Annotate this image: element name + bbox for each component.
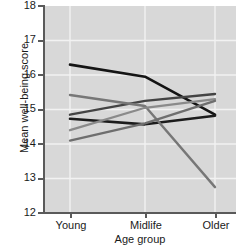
chart-figure: Mean well-being score 18 17 16 15 14 13 … <box>0 0 242 249</box>
x-tick-mark-midlife <box>145 213 147 218</box>
x-tick-label-young: Young <box>41 219 101 231</box>
x-tick-label-older: Older <box>186 219 242 231</box>
y-axis-line <box>43 5 45 214</box>
plot-area <box>44 6 236 213</box>
y-tick-label-14: 14 <box>14 138 36 149</box>
y-tick-label-16: 16 <box>14 69 36 80</box>
x-tick-mark-older <box>215 213 217 218</box>
y-tick-label-13: 13 <box>14 172 36 183</box>
y-tick-label-17: 17 <box>14 34 36 45</box>
y-tick-label-12: 12 <box>14 207 36 218</box>
y-tick-label-18: 18 <box>14 0 36 11</box>
x-tick-mark-young <box>70 213 72 218</box>
y-tick-label-15: 15 <box>14 103 36 114</box>
plot-svg <box>44 6 236 213</box>
x-axis-title: Age group <box>44 233 236 245</box>
x-tick-label-midlife: Midlife <box>116 219 176 231</box>
